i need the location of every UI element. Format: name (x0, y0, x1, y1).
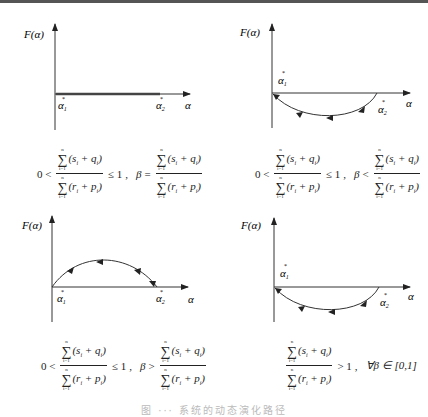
beta-relation: = (144, 168, 150, 180)
formula-prefix: 0 < (37, 168, 51, 180)
evolution-path (52, 260, 157, 287)
direction-arrow-icon (296, 112, 303, 118)
direction-arrow-icon (298, 306, 305, 312)
direction-arrow-icon (149, 281, 156, 287)
formula-relation: ≤ 1 (326, 168, 340, 180)
formula-relation: ≤ 1 (112, 360, 126, 372)
formula-separator: , (343, 168, 346, 180)
condition-formula-3: 0 < n∑i=1(si + qi) n∑i=1(ri + pi) ≤ 1 , … (38, 339, 208, 392)
figure-caption: 图 ··· 系统的动态演化路径 (0, 402, 428, 417)
formula-relation: ≤ 1 (108, 168, 122, 180)
payoff-ratio-fraction: n∑i=1(si + qi) n∑i=1(ri + pi) (274, 147, 320, 200)
x-axis-label: α (408, 290, 414, 302)
condition-formula-4: n∑i=1(si + qi) n∑i=1(ri + pi) > 1 , ∀β ∈… (284, 339, 417, 392)
formula-relation: > 1 (337, 360, 351, 372)
alpha1-star: * (61, 289, 64, 295)
y-axis-label: F(α) (21, 219, 42, 232)
formula-prefix: 0 < (255, 168, 269, 180)
direction-arrow-icon (67, 267, 74, 274)
alpha2-star: * (160, 96, 163, 102)
beta-symbol: β (354, 168, 359, 180)
condition-formula-2: 0 < n∑i=1(si + qi) n∑i=1(ri + pi) ≤ 1 , … (252, 147, 422, 200)
alpha2-star: * (384, 292, 387, 298)
payoff-ratio-fraction: n∑i=1(si + qi) n∑i=1(ri + pi) (286, 339, 332, 392)
y-axis-label: F(α) (240, 219, 261, 232)
alpha1-star: * (282, 70, 285, 76)
payoff-ratio-fraction: n∑i=1(si + qi) n∑i=1(ri + pi) (56, 147, 102, 200)
formula-prefix: 0 < (41, 360, 55, 372)
alpha2-star: * (160, 289, 163, 295)
formula-separator: , (129, 360, 132, 372)
beta-threshold-fraction: n∑i=1(si + qi) n∑i=1(ri + pi) (374, 147, 420, 200)
alpha2-star: * (382, 99, 385, 105)
formula-separator: , (355, 360, 358, 372)
formula-separator: , (125, 168, 128, 180)
direction-arrow-icon (134, 268, 141, 275)
x-axis-label: α (406, 97, 412, 109)
alpha1-star: * (284, 263, 287, 269)
alpha1-star: * (62, 96, 65, 102)
beta-symbol: β (136, 168, 141, 180)
beta-symbol: β (140, 360, 145, 372)
panel-2 (272, 24, 410, 128)
forall-beta-condition: ∀β ∈ [0,1] (366, 359, 417, 372)
payoff-ratio-fraction: n∑i=1(si + qi) n∑i=1(ri + pi) (60, 339, 106, 392)
beta-threshold-fraction: n∑i=1(si + qi) n∑i=1(ri + pi) (160, 339, 206, 392)
beta-threshold-fraction: n∑i=1(si + qi) n∑i=1(ri + pi) (156, 147, 202, 200)
y-axis-label: F(α) (239, 26, 260, 39)
y-axis-label: F(α) (23, 28, 44, 41)
condition-formula-1: 0 < n∑i=1(si + qi) n∑i=1(ri + pi) ≤ 1 , … (34, 147, 204, 200)
panel-4 (274, 218, 410, 322)
beta-relation: > (148, 360, 154, 372)
x-axis-label: α (185, 99, 191, 111)
panel-1 (55, 24, 190, 130)
panel-3 (52, 216, 188, 322)
x-axis-label: α (188, 293, 194, 305)
beta-relation: < (362, 168, 368, 180)
